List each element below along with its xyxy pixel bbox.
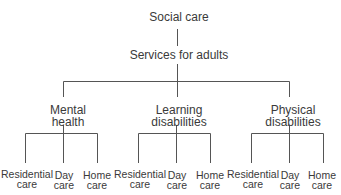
leaf-day-care: Daycare	[167, 170, 187, 190]
leaf-home-care: Homecare	[196, 170, 224, 190]
leaf-line: care	[196, 180, 224, 190]
leaf-day-care: Daycare	[54, 170, 74, 190]
node-line: disabilities	[151, 116, 206, 128]
node-line: health	[50, 116, 86, 128]
leaf-line: care	[1, 179, 53, 189]
leaf-residential-care: Residentialcare	[114, 169, 166, 189]
leaf-day-care: Daycare	[280, 170, 300, 190]
leaf-home-care: Homecare	[308, 170, 336, 190]
leaf-home-care: Homecare	[83, 170, 111, 190]
mental-health-node: Mental health	[50, 104, 86, 128]
leaf-line: care	[83, 180, 111, 190]
leaf-line: care	[308, 180, 336, 190]
connector-lines	[0, 0, 341, 195]
services-for-adults-node: Services for adults	[130, 49, 229, 61]
leaf-residential-care: Residentialcare	[1, 169, 53, 189]
leaf-line: care	[54, 180, 74, 190]
leaf-line: care	[280, 180, 300, 190]
physical-disabilities-node: Physical disabilities	[265, 104, 320, 128]
node-line: disabilities	[265, 116, 320, 128]
root-node: Social care	[149, 11, 208, 23]
leaf-line: care	[114, 179, 166, 189]
leaf-line: care	[167, 180, 187, 190]
leaf-residential-care: Residentialcare	[227, 169, 279, 189]
learning-disabilities-node: Learning disabilities	[151, 104, 206, 128]
leaf-line: care	[227, 179, 279, 189]
